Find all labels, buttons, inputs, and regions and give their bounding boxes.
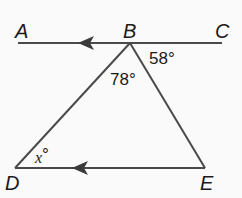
geometry-diagram: A B C D E 58° 78° x° [0, 0, 242, 198]
point-label-c: C [215, 20, 230, 42]
point-label-e: E [200, 172, 214, 194]
angle-label-cbe: 58° [149, 49, 175, 68]
angle-label-dbe: 78° [110, 70, 136, 89]
point-label-d: D [5, 172, 19, 194]
angle-label-bde: x° [34, 145, 49, 166]
point-label-a: A [14, 20, 28, 42]
point-label-b: B [123, 20, 136, 42]
